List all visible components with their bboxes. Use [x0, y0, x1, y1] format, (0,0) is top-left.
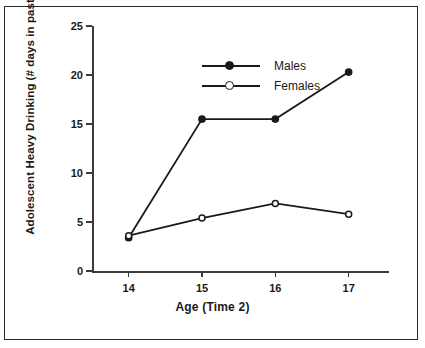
x-tick-label: 16 [269, 282, 281, 294]
legend-marker-icon [225, 61, 234, 70]
x-axis-title: Age (Time 2) [0, 300, 425, 314]
x-tick-label: 15 [196, 282, 208, 294]
legend-swatch [202, 80, 260, 92]
plot-area: 0510152025 14151617 MalesFemales [92, 26, 389, 271]
y-tick-label: 25 [71, 20, 83, 32]
legend-item-males: Males [202, 56, 320, 76]
chart-figure: Adolescent Heavy Drinking (# days in pas… [0, 0, 425, 348]
data-point-males [346, 69, 352, 75]
y-axis-title-line1: Adolescent Heavy Drinking [23, 83, 38, 234]
x-tick-mark [128, 271, 129, 277]
data-point-females [272, 200, 278, 206]
x-tick-label: 14 [123, 282, 135, 294]
data-point-females [126, 233, 132, 239]
legend-item-females: Females [202, 76, 320, 96]
y-axis-title: Adolescent Heavy Drinking (# days in pas… [7, 0, 53, 168]
x-tick-mark [201, 271, 202, 277]
y-tick-label: 20 [71, 69, 83, 81]
series-line-females [129, 203, 349, 235]
legend-marker-icon [225, 81, 234, 90]
y-tick-label: 5 [77, 216, 83, 228]
data-point-females [346, 211, 352, 217]
series-line-males [129, 72, 349, 238]
legend-swatch [202, 60, 260, 72]
y-tick-label: 10 [71, 167, 83, 179]
data-point-males [272, 116, 278, 122]
data-point-males [199, 116, 205, 122]
y-axis-title-line2: (# days in past year consumed 5+ drinks) [23, 0, 38, 80]
x-axis-line [92, 271, 389, 273]
x-tick-mark [348, 271, 349, 277]
x-tick-label: 17 [343, 282, 355, 294]
legend-label: Males [274, 59, 306, 73]
y-tick-label: 15 [71, 118, 83, 130]
y-tick-label: 0 [77, 265, 83, 277]
legend-label: Females [274, 79, 320, 93]
x-tick-mark [275, 271, 276, 277]
data-point-females [199, 215, 205, 221]
chart-legend: MalesFemales [202, 56, 320, 96]
